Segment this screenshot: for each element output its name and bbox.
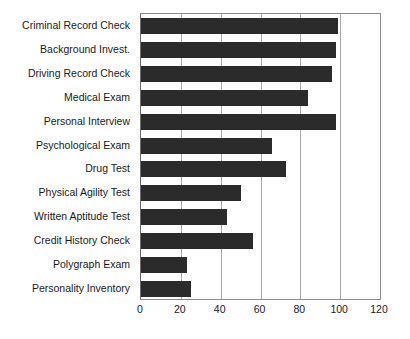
bar <box>141 114 336 130</box>
bar <box>141 185 241 201</box>
x-tick-label: 0 <box>137 303 143 315</box>
x-tick-label: 60 <box>254 303 266 315</box>
x-tick-label: 120 <box>370 303 388 315</box>
category-label: Medical Exam <box>0 91 130 103</box>
category-axis: Criminal Record CheckBackground Invest.D… <box>0 13 135 300</box>
bar <box>141 42 336 58</box>
category-label: Personality Inventory <box>0 282 130 294</box>
category-label: Written Aptitude Test <box>0 210 130 222</box>
category-label: Physical Agility Test <box>0 186 130 198</box>
category-label: Polygraph Exam <box>0 258 130 270</box>
bar <box>141 233 253 249</box>
category-label: Credit History Check <box>0 234 130 246</box>
category-label: Background Invest. <box>0 43 130 55</box>
x-axis: 020406080100120 <box>140 301 381 321</box>
bar <box>141 209 227 225</box>
category-label: Personal Interview <box>0 115 130 127</box>
x-tick-label: 80 <box>293 303 305 315</box>
bar <box>141 257 187 273</box>
x-tick-label: 20 <box>174 303 186 315</box>
x-tick-label: 100 <box>330 303 348 315</box>
category-label: Driving Record Check <box>0 67 130 79</box>
category-label: Criminal Record Check <box>0 19 130 31</box>
category-label: Drug Test <box>0 162 130 174</box>
bar <box>141 281 191 297</box>
bars-layer <box>141 14 380 299</box>
plot-area <box>140 13 381 300</box>
bar <box>141 18 338 34</box>
bar <box>141 161 286 177</box>
bar <box>141 138 272 154</box>
bar-chart: Criminal Record CheckBackground Invest.D… <box>0 0 410 339</box>
category-label: Psychological Exam <box>0 139 130 151</box>
x-tick-label: 40 <box>214 303 226 315</box>
bar <box>141 66 332 82</box>
bar <box>141 90 308 106</box>
